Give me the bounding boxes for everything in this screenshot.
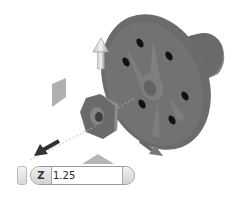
coordinate-input-box: Z xyxy=(17,166,135,185)
3d-viewport[interactable]: Z xyxy=(0,0,235,203)
drag-grip-handle[interactable] xyxy=(17,166,27,185)
flange-disc[interactable] xyxy=(82,0,231,166)
triangle-handle-icon[interactable] xyxy=(82,154,114,164)
plane-handle-icon[interactable] xyxy=(52,78,66,107)
arrow-down-left-icon[interactable] xyxy=(34,141,59,156)
field-end-cap xyxy=(122,167,134,184)
z-value-input[interactable] xyxy=(53,167,115,184)
coordinate-field[interactable]: Z xyxy=(30,166,135,185)
axis-label[interactable]: Z xyxy=(31,167,52,184)
